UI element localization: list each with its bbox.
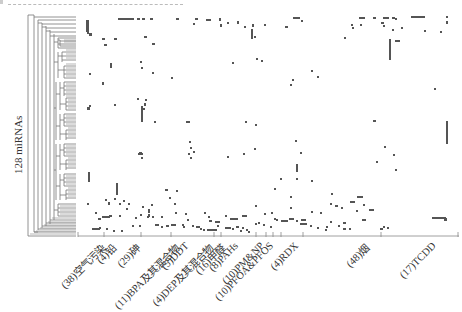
heatmap-cell <box>330 203 332 205</box>
heatmap-cell <box>193 23 195 25</box>
heatmap-cell <box>300 223 307 225</box>
heatmap-cell <box>175 212 177 214</box>
heatmap-cell <box>183 226 185 228</box>
heatmap-cell <box>380 228 383 230</box>
heatmap-cell <box>211 229 217 231</box>
heatmap-cell <box>169 197 171 199</box>
heatmap <box>0 0 462 245</box>
heatmap-cell <box>290 196 292 198</box>
heatmap-cell <box>237 21 239 24</box>
heatmap-cell <box>227 22 229 24</box>
heatmap-cell <box>89 73 91 75</box>
heatmap-cell <box>151 204 153 206</box>
heatmap-cell <box>395 18 397 20</box>
heatmap-cell <box>232 62 234 64</box>
heatmap-cell <box>338 225 340 227</box>
heatmap-cell <box>383 17 389 19</box>
heatmap-cell <box>264 24 266 26</box>
heatmap-cell <box>190 157 192 159</box>
heatmap-cell <box>186 121 190 123</box>
heatmap-cell <box>311 180 313 182</box>
heatmap-cell <box>369 209 374 211</box>
heatmap-cell <box>106 228 108 230</box>
heatmap-cell <box>256 58 258 60</box>
heatmap-cell <box>165 189 168 191</box>
heatmap-cell <box>215 221 220 223</box>
heatmap-cell <box>236 226 239 228</box>
heatmap-cell <box>155 224 159 226</box>
heatmap-cell <box>219 18 221 21</box>
heatmap-cell <box>207 229 211 231</box>
heatmap-cell <box>341 207 343 209</box>
heatmap-cell <box>296 178 298 180</box>
heatmap-cell <box>242 215 247 217</box>
heatmap-cell <box>99 227 101 229</box>
heatmap-cell <box>182 224 184 226</box>
heatmap-cell <box>248 231 250 233</box>
heatmap-cell <box>270 226 272 228</box>
heatmap-cell <box>154 121 156 123</box>
heatmap-cell <box>274 188 276 190</box>
heatmap-cell <box>263 224 265 226</box>
heatmap-cell <box>190 147 192 149</box>
heatmap-cell <box>87 203 89 205</box>
heatmap-cell <box>161 216 163 218</box>
heatmap-cell <box>193 151 195 153</box>
heatmap-cell <box>102 82 104 85</box>
heatmap-cell <box>98 218 101 220</box>
heatmap-cell <box>152 216 154 218</box>
heatmap-cell <box>290 84 292 86</box>
heatmap-cell <box>320 212 322 214</box>
heatmap-cell <box>141 110 143 117</box>
heatmap-cell <box>293 17 300 19</box>
heatmap-cell <box>166 225 169 227</box>
heatmap-cell <box>296 164 298 172</box>
heatmap-cell <box>357 196 363 198</box>
heatmap-cell <box>432 217 446 219</box>
heatmap-cell <box>208 216 210 218</box>
heatmap-cell <box>118 18 124 20</box>
heatmap-cell <box>123 200 125 202</box>
heatmap-cell <box>144 103 146 106</box>
heatmap-cell <box>255 124 257 126</box>
heatmap-cell <box>292 79 294 81</box>
heatmap-cell <box>209 220 212 222</box>
heatmap-cell <box>141 157 143 159</box>
heatmap-cell <box>89 105 91 107</box>
heatmap-cell <box>295 140 297 142</box>
x-category-label: (17)TCDD <box>397 240 437 280</box>
heatmap-cell <box>139 153 141 155</box>
heatmap-cell <box>264 213 266 215</box>
heatmap-cell <box>311 70 313 72</box>
heatmap-cell <box>142 206 144 208</box>
heatmap-cell <box>360 24 362 26</box>
heatmap-cell <box>203 229 205 231</box>
heatmap-cell <box>116 183 118 195</box>
heatmap-cell <box>310 225 312 227</box>
heatmap-cell <box>446 21 448 24</box>
heatmap-cell <box>349 228 351 230</box>
heatmap-cell <box>245 121 247 123</box>
heatmap-cell <box>393 154 395 156</box>
heatmap-cell <box>300 152 302 154</box>
heatmap-cell <box>109 215 112 217</box>
heatmap-cell <box>196 226 200 228</box>
heatmap-cell <box>258 222 260 224</box>
heatmap-cell <box>325 229 327 231</box>
heatmap-cell <box>383 25 385 27</box>
heatmap-cell <box>331 193 333 195</box>
heatmap-cell <box>276 219 278 221</box>
heatmap-cell <box>185 213 187 215</box>
heatmap-cell <box>87 107 90 110</box>
heatmap-cell <box>174 203 176 205</box>
heatmap-cell <box>255 223 257 225</box>
heatmap-cell <box>352 27 354 29</box>
heatmap-cell <box>311 211 313 213</box>
heatmap-cell <box>434 88 436 90</box>
heatmap-cell <box>225 227 231 229</box>
heatmap-cell <box>289 218 294 220</box>
heatmap-cell <box>411 16 425 18</box>
heatmap-cell <box>92 228 100 230</box>
heatmap-cell <box>242 227 244 229</box>
heatmap-cell <box>148 214 150 217</box>
